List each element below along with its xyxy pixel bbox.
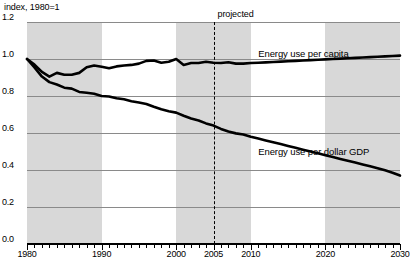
y-axis-tick-label: 0.8: [2, 87, 14, 96]
y-axis-tick-label: 0.6: [2, 124, 14, 133]
x-axis-tick-label: 2020: [316, 250, 335, 259]
x-axis-tick: [251, 244, 252, 250]
x-axis-tick-label: 1980: [17, 250, 36, 259]
x-axis-tick: [131, 244, 132, 248]
x-axis-tick: [355, 244, 356, 248]
y-axis-tick-label: 1.0: [2, 50, 14, 59]
x-axis-tick: [214, 244, 215, 250]
x-axis-tick: [139, 244, 140, 248]
x-axis-tick: [72, 244, 73, 248]
x-axis-tick-label: 2030: [390, 250, 409, 259]
x-axis-tick: [243, 244, 244, 248]
series-label-energy-per-capita: Energy use per capita: [258, 49, 348, 59]
x-axis-tick: [393, 244, 394, 248]
energy-index-chart: index, 1980=1 0.00.20.40.60.81.01.2 1980…: [0, 0, 410, 278]
x-axis-tick-label: 2010: [241, 250, 260, 259]
x-axis-tick: [184, 244, 185, 248]
x-axis-tick: [370, 244, 371, 248]
x-axis-tick: [348, 244, 349, 248]
x-axis-tick: [34, 244, 35, 248]
x-axis-tick: [296, 244, 297, 248]
x-axis-tick: [221, 244, 222, 248]
x-axis-tick: [117, 244, 118, 248]
x-axis-tick: [318, 244, 319, 248]
x-axis-tick: [363, 244, 364, 248]
x-axis-tick: [94, 244, 95, 248]
x-axis-tick: [385, 244, 386, 248]
x-axis-tick: [266, 244, 267, 248]
x-axis-tick: [176, 244, 177, 250]
x-axis-tick: [325, 244, 326, 250]
x-axis-tick: [228, 244, 229, 248]
y-axis-tick-label: 0.0: [2, 235, 14, 244]
y-axis-tick-label: 1.2: [2, 13, 14, 22]
series-label-energy-per-dollar-gdp: Energy use per dollar GDP: [258, 147, 369, 157]
x-axis-tick: [169, 244, 170, 248]
x-axis-tick: [49, 244, 50, 248]
x-axis-tick: [87, 244, 88, 248]
footer-note: [4, 268, 334, 277]
x-axis-tick: [236, 244, 237, 248]
x-axis-tick-label: 1990: [92, 250, 111, 259]
x-axis-tick: [340, 244, 341, 248]
x-axis-tick: [64, 244, 65, 248]
x-axis-tick: [288, 244, 289, 248]
x-axis-tick: [79, 244, 80, 248]
x-axis-tick: [124, 244, 125, 248]
x-axis-tick: [400, 244, 401, 250]
x-axis-tick: [161, 244, 162, 248]
projected-divider-line: [214, 22, 215, 244]
y-axis-tick-label: 0.2: [2, 198, 14, 207]
x-axis-tick: [102, 244, 103, 250]
x-axis-tick: [258, 244, 259, 248]
projected-annotation-label: projected: [218, 10, 254, 19]
x-axis-tick-label: 2000: [167, 250, 186, 259]
x-axis-tick: [42, 244, 43, 248]
x-axis-tick: [273, 244, 274, 248]
x-axis-tick: [146, 244, 147, 248]
x-axis-tick: [333, 244, 334, 248]
x-axis-tick: [310, 244, 311, 248]
x-axis-tick-label: 2005: [204, 250, 223, 259]
x-axis-tick: [109, 244, 110, 248]
y-axis-tick-label: 0.4: [2, 161, 14, 170]
x-axis-tick: [281, 244, 282, 248]
x-axis-tick: [191, 244, 192, 248]
x-axis-tick: [199, 244, 200, 248]
x-axis-tick: [57, 244, 58, 248]
x-axis-tick: [303, 244, 304, 248]
x-axis-tick: [27, 244, 28, 250]
axis-unit-label: index, 1980=1: [4, 2, 60, 12]
x-axis-tick: [206, 244, 207, 248]
x-axis-tick: [154, 244, 155, 248]
x-axis-tick: [378, 244, 379, 248]
